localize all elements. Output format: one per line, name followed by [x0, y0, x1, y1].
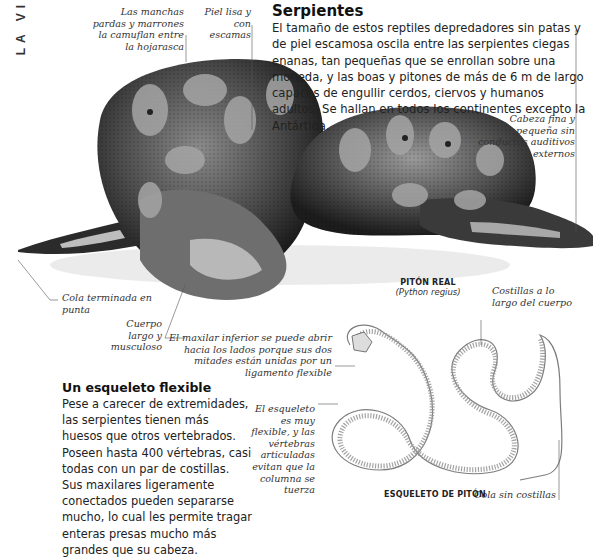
caption-ribs: Costillas a lo largo del cuerpo [492, 285, 582, 308]
skeleton-paragraph: Pese a carecer de extremidades, las serp… [62, 396, 252, 558]
caption-flexible: El esqueleto es muy flexible, y las vért… [250, 403, 315, 496]
caption-patches: Las manchas pardas y marrones la camufla… [92, 6, 184, 52]
species-label: PITÓN REAL (Python regius) [378, 278, 478, 297]
section-title: Serpientes [272, 2, 590, 20]
caption-head: Cabeza fina y pequeña sin conductos audi… [465, 113, 575, 159]
caption-body: Cuerpo largo y musculoso [100, 318, 162, 353]
skeleton-label: ESQUELETO DE PITÓN [375, 490, 495, 499]
species-scientific-name: (Python regius) [378, 287, 478, 297]
caption-skin: Piel lisa y con escamas [196, 6, 251, 41]
caption-tail: Cola terminada en punta [62, 292, 182, 315]
species-common-name: PITÓN REAL [378, 278, 478, 287]
caption-jaw: El maxilar inferior se puede abrir hacia… [160, 332, 332, 378]
skeleton-section: Un esqueleto flexible Pese a carecer de … [62, 380, 252, 558]
skeleton-section-title: Un esqueleto flexible [62, 380, 252, 396]
